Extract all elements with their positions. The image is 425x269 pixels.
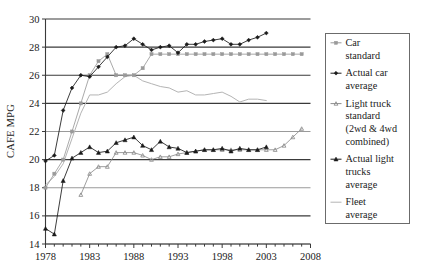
y-tick-label-30: 30	[29, 14, 40, 25]
data-point-1990	[150, 53, 153, 56]
data-point-2000	[238, 53, 241, 56]
x-tick-label-2008: 2008	[300, 251, 321, 262]
legend-label-line: average	[346, 80, 378, 91]
data-point-1989	[141, 67, 144, 70]
data-point-1994	[185, 53, 188, 56]
y-tick-label-20: 20	[29, 154, 40, 165]
data-point-2003	[265, 53, 268, 56]
y-tick-labels: 141618202224262830	[29, 14, 40, 250]
data-point-1984	[97, 60, 100, 63]
data-point-1988	[132, 74, 135, 77]
x-tick-label-1978: 1978	[35, 251, 56, 262]
data-point-1981	[70, 130, 73, 133]
data-point-1996	[203, 53, 206, 56]
legend-label-line: standard	[346, 110, 381, 121]
legend-label-line: Light truck	[346, 98, 392, 109]
y-axis-title: CAFE MPG	[5, 104, 16, 158]
legend-label-line: Actual car	[346, 67, 389, 78]
legend-swatch-marker	[334, 41, 337, 44]
legend-label-line: Car	[346, 37, 361, 48]
data-point-1995	[194, 53, 197, 56]
y-tick-label-18: 18	[29, 182, 40, 193]
legend-label-line: trucks	[346, 166, 371, 177]
data-point-2002	[256, 53, 259, 56]
data-point-2005	[282, 53, 285, 56]
x-tick-label-1998: 1998	[212, 251, 233, 262]
data-point-2006	[291, 53, 294, 56]
data-point-1987	[123, 74, 126, 77]
y-tick-label-26: 26	[29, 70, 40, 81]
data-point-2001	[247, 53, 250, 56]
y-tick-label-16: 16	[29, 210, 40, 221]
data-point-1982	[79, 102, 82, 105]
y-tick-label-14: 14	[29, 239, 40, 250]
x-tick-label-1993: 1993	[168, 251, 189, 262]
data-point-1998	[221, 53, 224, 56]
legend-label-line: Actual light	[346, 153, 395, 164]
data-point-1999	[229, 53, 232, 56]
x-tick-label-2003: 2003	[256, 251, 277, 262]
legend-label-line: standard	[346, 50, 381, 61]
chart-legend: CarstandardActual caraverageLight trucks…	[326, 34, 410, 224]
legend-label-line: average	[346, 179, 378, 190]
legend-label-line: combined)	[346, 136, 390, 148]
data-point-2004	[274, 53, 277, 56]
data-point-1978	[44, 186, 47, 189]
data-point-1986	[115, 74, 118, 77]
chart-container: 141618202224262830 197819831988199319982…	[0, 0, 425, 269]
y-tick-label-22: 22	[29, 126, 40, 137]
legend-label-line: (2wd & 4wd	[346, 123, 398, 135]
data-point-1992	[168, 53, 171, 56]
legend-label-line: average	[346, 209, 378, 220]
y-tick-label-28: 28	[29, 42, 40, 53]
data-point-1997	[212, 53, 215, 56]
data-point-1980	[62, 158, 65, 161]
x-tick-label-1988: 1988	[123, 251, 144, 262]
y-tick-label-24: 24	[29, 98, 40, 109]
x-tick-label-1983: 1983	[79, 251, 100, 262]
cafe-mpg-line-chart: 141618202224262830 197819831988199319982…	[0, 0, 425, 269]
data-point-1991	[159, 53, 162, 56]
data-point-1979	[53, 172, 56, 175]
data-point-2007	[300, 53, 303, 56]
y-axis-label: CAFE MPG	[5, 104, 16, 158]
legend-label-line: Fleet	[346, 196, 367, 207]
